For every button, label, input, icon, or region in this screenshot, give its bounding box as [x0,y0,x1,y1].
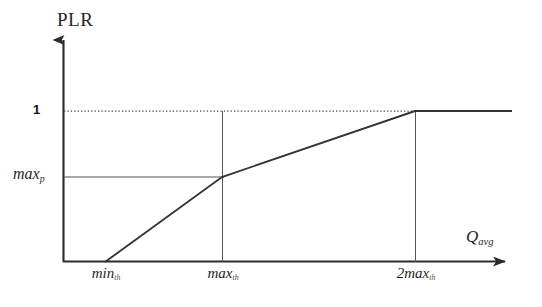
x-tick-label-2maxth: 2maxth [397,266,436,282]
qavg-base: Q [466,227,478,246]
plr-qavg-figure: PLR 1 maxp minth maxth 2maxth Qavg [0,0,542,307]
maxth-subscript: th [232,273,238,282]
maxp-base: max [13,165,40,182]
x-tick-label-maxth: maxth [207,266,238,282]
y-tick-label-one: 1 [33,103,40,116]
plot-canvas [0,0,542,307]
2maxth-base: 2max [397,265,430,281]
maxth-base: max [207,265,232,281]
x-axis-title: Qavg [466,228,494,248]
2maxth-subscript: th [429,273,435,282]
plr-curve [105,111,512,262]
minth-subscript: th [114,273,120,282]
qavg-subscript: avg [478,236,493,247]
x-tick-label-minth: minth [92,266,121,282]
minth-base: min [92,265,115,281]
y-tick-label-maxp: maxp [13,166,45,184]
maxp-subscript: p [40,173,45,184]
y-axis-title: PLR [57,10,93,29]
